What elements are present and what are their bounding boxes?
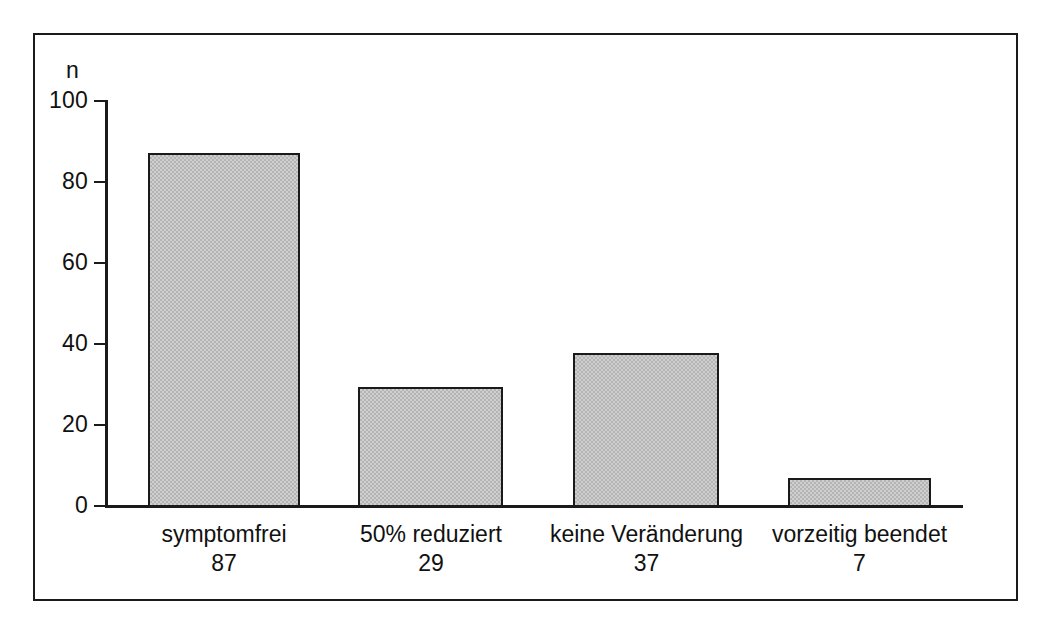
bar-vorzeitig-beendet[interactable] xyxy=(788,478,931,507)
y-axis-line xyxy=(105,100,108,508)
y-axis-ticklabel-100-wrap: 100 xyxy=(20,89,88,112)
y-axis-tick-80 xyxy=(94,181,106,183)
y-axis-tick-20 xyxy=(94,424,106,426)
y-axis-ticklabel-60-wrap: 60 xyxy=(20,251,88,274)
y-axis-tick-60 xyxy=(94,262,106,264)
x-axis-category-symptomfrei: symptomfrei 87 xyxy=(134,520,314,578)
y-axis-tick-0 xyxy=(94,505,106,507)
x-axis-category-vorzeitig-beendet: vorzeitig beendet 7 xyxy=(757,520,962,578)
category-label-text: keine Veränderung xyxy=(534,520,759,549)
y-axis-ticklabel-40: 40 xyxy=(30,332,88,355)
figure: n 100 80 60 40 20 0 xyxy=(0,0,1051,631)
category-label-text: 50% reduziert xyxy=(336,520,526,549)
y-axis-ticklabel-100: 100 xyxy=(30,89,88,112)
bar-keine-veraenderung[interactable] xyxy=(573,353,719,507)
y-axis-ticklabel-20: 20 xyxy=(30,413,88,436)
y-axis-ticklabel-0-wrap: 0 xyxy=(20,494,88,517)
category-count-value: 29 xyxy=(336,549,526,578)
bar-symptomfrei[interactable] xyxy=(148,153,300,507)
x-axis-category-keine-veraenderung: keine Veränderung 37 xyxy=(534,520,759,578)
y-axis-ticklabel-0: 0 xyxy=(30,494,88,517)
y-axis-ticklabel-60: 60 xyxy=(30,251,88,274)
bar-50-prozent-reduziert[interactable] xyxy=(358,387,503,507)
y-axis-ticklabel-20-wrap: 20 xyxy=(20,413,88,436)
y-axis-ticklabel-40-wrap: 40 xyxy=(20,332,88,355)
category-label-text: vorzeitig beendet xyxy=(757,520,962,549)
category-count-value: 37 xyxy=(534,549,759,578)
category-count-value: 87 xyxy=(134,549,314,578)
y-axis-tick-40 xyxy=(94,343,106,345)
y-axis-label: n xyxy=(66,59,79,82)
category-label-text: symptomfrei xyxy=(134,520,314,549)
bar-chart-plot: n 100 80 60 40 20 0 xyxy=(0,0,1051,631)
y-axis-ticklabel-80: 80 xyxy=(30,170,88,193)
y-axis-tick-100 xyxy=(94,100,106,102)
category-count-value: 7 xyxy=(757,549,962,578)
y-axis-ticklabel-80-wrap: 80 xyxy=(20,170,88,193)
x-axis-category-50-prozent-reduziert: 50% reduziert 29 xyxy=(336,520,526,578)
